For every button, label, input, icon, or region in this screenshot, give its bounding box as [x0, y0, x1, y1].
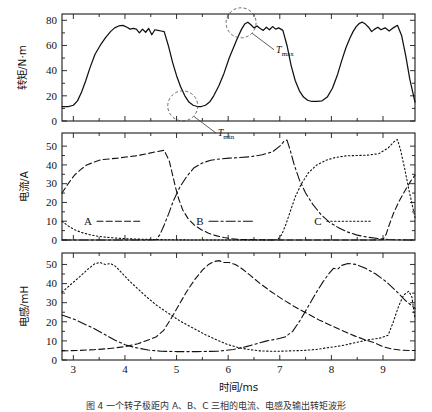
- y-axis-label: 电流/A: [18, 170, 30, 202]
- svg-text:10: 10: [46, 335, 58, 347]
- series-total-torque: [62, 22, 415, 106]
- svg-text:30: 30: [46, 177, 58, 189]
- figure-caption: 图 4 一个转子极距内 A、B、C 三相的电流、电感及输出转矩波形: [0, 400, 432, 412]
- svg-text:9: 9: [380, 363, 386, 375]
- annotation-label-max: Tmax: [276, 44, 294, 57]
- y-axis-label: 电感/mH: [18, 286, 30, 328]
- svg-text:3: 3: [71, 363, 77, 375]
- svg-text:20: 20: [46, 196, 58, 208]
- svg-text:20: 20: [46, 316, 58, 328]
- svg-text:30: 30: [46, 296, 58, 308]
- annotation-label-min: Tmin: [218, 127, 235, 140]
- legend-label-b: B: [196, 215, 203, 227]
- x-axis-label: 时间/ms: [219, 381, 258, 393]
- y-axis-label: 转矩/N·m: [16, 45, 28, 90]
- series-a: [62, 150, 415, 240]
- svg-text:0: 0: [52, 354, 58, 366]
- legend-label-c: C: [314, 215, 321, 227]
- svg-text:0: 0: [52, 115, 58, 127]
- svg-text:8: 8: [329, 363, 335, 375]
- panel-inductance: 010203040503456789电感/mH时间/ms: [18, 253, 415, 393]
- series-c: [62, 140, 415, 240]
- svg-text:40: 40: [46, 159, 58, 171]
- panel-current: 01020304050电流/AABC: [18, 133, 415, 246]
- svg-text:0: 0: [52, 234, 58, 246]
- figure-srm-waveforms: 020406080转矩/N·mTmaxTmin 01020304050电流/AA…: [0, 0, 432, 412]
- svg-text:40: 40: [46, 64, 58, 76]
- svg-text:20: 20: [46, 90, 58, 102]
- panel-torque: 020406080转矩/N·mTmaxTmin: [16, 8, 415, 141]
- annotation-leader-min: [194, 116, 216, 133]
- legend-label-a: A: [84, 215, 92, 227]
- svg-text:40: 40: [46, 277, 58, 289]
- svg-text:6: 6: [225, 363, 231, 375]
- series-c: [62, 263, 415, 352]
- svg-text:60: 60: [46, 39, 58, 51]
- svg-text:50: 50: [46, 258, 58, 270]
- annotation-leader-max: [252, 33, 274, 50]
- annotation-circle-max: [226, 8, 256, 38]
- svg-text:5: 5: [174, 363, 180, 375]
- series-a: [62, 261, 415, 351]
- svg-text:80: 80: [46, 14, 58, 26]
- svg-text:50: 50: [46, 140, 58, 152]
- series-b: [62, 140, 415, 240]
- svg-text:10: 10: [46, 215, 58, 227]
- svg-text:4: 4: [122, 363, 128, 375]
- svg-text:7: 7: [277, 363, 283, 375]
